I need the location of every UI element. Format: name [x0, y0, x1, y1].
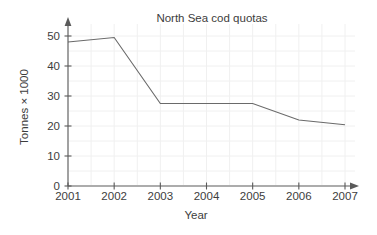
y-axis-title: Tonnes × 1000	[18, 69, 30, 145]
x-axis-tick-label: 2003	[148, 190, 174, 202]
line-chart: 01020304050 2001200220032004200520062007…	[0, 0, 377, 235]
x-axis-tick-label: 2005	[240, 190, 266, 202]
y-axis-tick-label: 40	[47, 60, 60, 72]
y-axis-tick-label: 50	[47, 30, 60, 42]
x-axis-title: Year	[184, 209, 207, 221]
y-axis-tick-label: 20	[47, 120, 60, 132]
chart-container: 01020304050 2001200220032004200520062007…	[0, 0, 377, 235]
y-axis-tick-label: 10	[47, 150, 60, 162]
x-axis-tick-label: 2002	[101, 190, 127, 202]
x-axis-tick-label: 2007	[332, 190, 358, 202]
x-axis-tick-label: 2004	[194, 190, 220, 202]
x-axis-tick-label: 2006	[286, 190, 312, 202]
chart-title: North Sea cod quotas	[156, 12, 267, 24]
x-axis-tick-label: 2001	[55, 190, 81, 202]
y-axis-tick-label: 30	[47, 90, 60, 102]
